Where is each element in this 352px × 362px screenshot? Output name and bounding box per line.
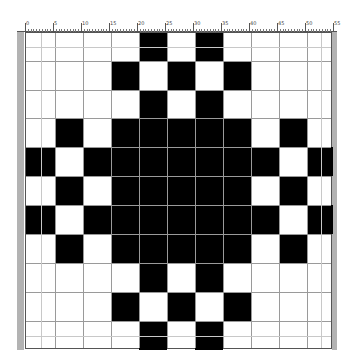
ruler-label: 5 <box>54 20 57 26</box>
filled-cell <box>111 176 139 205</box>
filled-cell <box>251 205 279 234</box>
grid-line-vertical <box>167 33 168 348</box>
grid-line-horizontal <box>26 118 331 119</box>
filled-cell <box>111 147 139 176</box>
grid-line-vertical <box>111 33 112 348</box>
filled-cell <box>167 205 195 234</box>
grid-line-vertical <box>55 33 56 348</box>
filled-cell <box>195 118 223 147</box>
filled-cell <box>279 176 307 205</box>
filled-cell <box>167 61 195 90</box>
ruler-label: 15 <box>110 20 116 26</box>
filled-cell <box>139 176 167 205</box>
filled-cell <box>111 205 139 234</box>
filled-cell <box>167 234 195 263</box>
grid-line-horizontal-minor <box>26 336 331 337</box>
filled-cell <box>167 147 195 176</box>
grid-line-vertical <box>223 33 224 348</box>
filled-cell <box>307 147 333 176</box>
filled-cell <box>111 292 139 321</box>
filled-cell <box>195 176 223 205</box>
grid-line-horizontal <box>26 321 331 322</box>
filled-cell <box>139 147 167 176</box>
filled-cell <box>83 147 111 176</box>
ruler-label: 10 <box>82 20 88 26</box>
grid-line-horizontal <box>26 61 331 62</box>
filled-cell <box>139 90 167 118</box>
grid-line-vertical <box>251 33 252 348</box>
filled-cell <box>139 263 167 292</box>
filled-cell <box>139 118 167 147</box>
grid-line-vertical <box>139 33 140 348</box>
filled-cell <box>195 147 223 176</box>
grid-line-vertical <box>195 33 196 348</box>
filled-cell <box>223 205 251 234</box>
left-margin-bar <box>17 32 24 350</box>
filled-cell <box>223 292 251 321</box>
filled-cell <box>195 205 223 234</box>
ruler-label: 45 <box>278 20 284 26</box>
ruler-label: 35 <box>222 20 228 26</box>
grid-line-vertical <box>83 33 84 348</box>
ruler-label: 20 <box>138 20 144 26</box>
filled-cell <box>111 118 139 147</box>
filled-cell <box>167 292 195 321</box>
ruler-label: 55 <box>334 20 340 26</box>
filled-cell <box>83 205 111 234</box>
filled-cell <box>167 176 195 205</box>
filled-cell <box>111 61 139 90</box>
grid-line-horizontal-minor <box>26 47 331 48</box>
grid-line-horizontal <box>26 263 331 264</box>
ruler: 0510152025303540455055 <box>17 22 337 32</box>
grid-line-horizontal <box>26 176 331 177</box>
pattern-grid <box>25 32 332 349</box>
filled-cell <box>55 118 83 147</box>
ruler-label: 25 <box>166 20 172 26</box>
filled-cell <box>55 234 83 263</box>
filled-cell <box>111 234 139 263</box>
filled-cell <box>167 118 195 147</box>
ruler-label: 30 <box>194 20 200 26</box>
grid-line-vertical-minor <box>41 33 42 348</box>
filled-cell <box>195 263 223 292</box>
filled-cell <box>223 61 251 90</box>
filled-cell <box>279 118 307 147</box>
ruler-label: 40 <box>250 20 256 26</box>
grid-line-horizontal <box>26 147 331 148</box>
grid-line-horizontal <box>26 292 331 293</box>
grid-line-vertical <box>279 33 280 348</box>
filled-cell <box>139 234 167 263</box>
grid-line-vertical-minor <box>321 33 322 348</box>
grid-line-horizontal <box>26 234 331 235</box>
ruler-label: 0 <box>26 20 29 26</box>
grid-line-vertical <box>307 33 308 348</box>
filled-cell <box>223 147 251 176</box>
right-margin-bar <box>332 32 337 350</box>
grid-line-horizontal <box>26 90 331 91</box>
filled-cell <box>55 176 83 205</box>
filled-cell <box>195 234 223 263</box>
ruler-label: 50 <box>306 20 312 26</box>
filled-cell <box>223 118 251 147</box>
filled-cell <box>223 234 251 263</box>
filled-cell <box>195 90 223 118</box>
grid-line-horizontal <box>26 205 331 206</box>
filled-cell <box>251 147 279 176</box>
filled-cell <box>279 234 307 263</box>
filled-cell <box>223 176 251 205</box>
filled-cell <box>307 205 333 234</box>
filled-cell <box>139 205 167 234</box>
